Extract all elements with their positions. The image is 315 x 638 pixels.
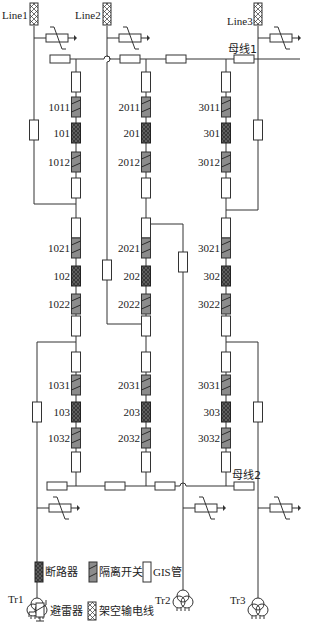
legend-breaker-icon [35,562,43,582]
bus2-label: 母线2 [232,468,261,482]
svg-text:1021: 1021 [48,242,70,254]
svg-text:302: 302 [204,270,221,282]
tr3-symbol [248,598,268,619]
tr2-label: Tr2 [155,594,171,606]
legend-gis-icon [143,562,151,582]
line1-symbol [30,3,38,25]
svg-text:3032: 3032 [198,432,220,444]
legend-disconnector-icon [89,562,97,582]
line1-label: Line1 [2,9,28,21]
legend-arrester-label: 避雷器 [50,604,83,618]
svg-text:1032: 1032 [48,432,70,444]
line2-label: Line2 [75,9,101,21]
legend-disconnector-label: 隔离开关 [99,565,143,579]
legend-overhead-line-icon [88,602,96,620]
legend: 断路器 隔离开关 GIS管 避雷器 架空输电线 [29,562,182,621]
tr1-label: Tr1 [8,593,24,605]
svg-text:3022: 3022 [198,298,220,310]
legend-breaker-label: 断路器 [45,565,78,579]
line3-label: Line3 [227,15,253,27]
tr3-label: Tr3 [230,594,246,606]
svg-text:2012: 2012 [118,156,140,168]
line3-symbol [254,3,262,25]
overhead-lines: Line1 Line2 Line3 [2,3,262,27]
svg-text:1022: 1022 [48,298,70,310]
legend-overhead-line-label: 架空输电线 [99,604,154,618]
svg-text:1011: 1011 [48,101,70,113]
svg-text:1012: 1012 [48,156,70,168]
svg-text:303: 303 [204,406,221,418]
svg-text:2022: 2022 [118,298,140,310]
svg-text:2031: 2031 [118,379,140,391]
svg-text:2021: 2021 [118,242,140,254]
svg-text:301: 301 [204,127,221,139]
svg-text:101: 101 [54,127,71,139]
svg-text:1031: 1031 [48,379,70,391]
svg-text:3012: 3012 [198,156,220,168]
substation-diagram: Line1 Line2 Line3 母线1 母线2 1011 101 1012 … [0,0,315,638]
svg-text:2011: 2011 [118,101,140,113]
svg-text:2032: 2032 [118,432,140,444]
svg-text:202: 202 [124,270,141,282]
tr2-symbol [173,590,193,611]
svg-text:203: 203 [124,406,141,418]
svg-text:102: 102 [54,270,71,282]
legend-gis-label: GIS管 [153,565,182,578]
svg-text:3011: 3011 [198,101,220,113]
svg-text:201: 201 [124,127,141,139]
svg-text:3031: 3031 [198,379,220,391]
svg-text:3021: 3021 [198,242,220,254]
bus1-label: 母线1 [228,42,257,56]
svg-text:103: 103 [54,406,71,418]
line2-symbol [103,3,111,25]
